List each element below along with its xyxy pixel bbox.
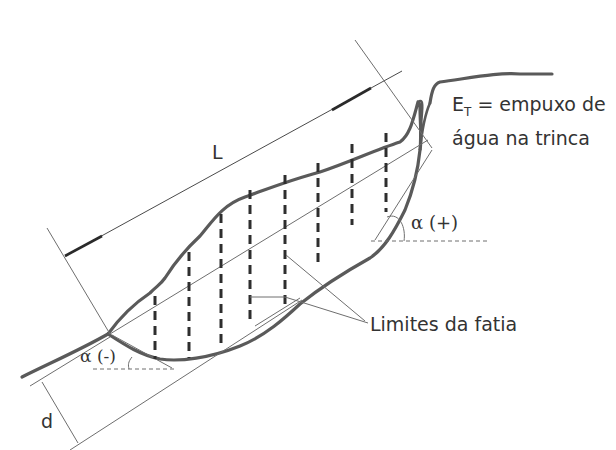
alpha-negative-label: α (-): [80, 346, 116, 366]
slice-limits-label: Limites da fatia: [370, 313, 517, 335]
crack-force-label-line1: ET = empuxo de: [452, 93, 606, 119]
length-extension-left: [47, 228, 110, 334]
length-dimension-tick-right: [332, 88, 371, 110]
length-label: L: [212, 141, 223, 163]
crack-force-text: = empuxo de: [471, 93, 605, 115]
slope-stability-diagram: α (+) α (-) L d ET = empuxo de água na t…: [0, 0, 616, 450]
length-extension-right: [355, 40, 432, 148]
alpha-negative-arc: [128, 357, 132, 369]
toe-tangent-line: [112, 335, 172, 368]
alpha-positive-label: α (+): [411, 212, 458, 233]
depth-lower-parallel-line: [70, 300, 302, 450]
depth-label: d: [41, 410, 53, 432]
crack-force-symbol: E: [452, 93, 464, 115]
chord-line: [110, 140, 428, 334]
slice-limits-leader-1: [250, 297, 368, 323]
slice-limits-leader-2: [286, 255, 365, 321]
length-dimension-tick-left: [65, 236, 102, 256]
crack-force-label-line2: água na trinca: [452, 127, 590, 149]
